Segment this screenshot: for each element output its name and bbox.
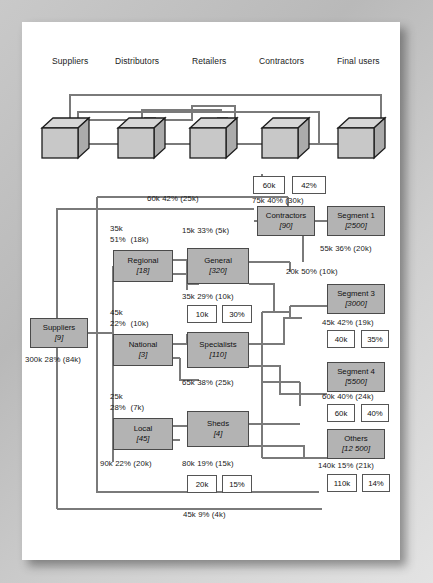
value-box-vb-segment4-1[interactable]: 60k: [327, 404, 355, 422]
value-box-vb-top-1[interactable]: 60k: [253, 176, 285, 194]
node-local-label: Local: [134, 424, 153, 434]
value-box-vb-segment4-2[interactable]: 40%: [361, 404, 389, 422]
cube-suppliers-icon: [42, 118, 89, 158]
node-contractors-label: Contractors: [266, 211, 306, 221]
value-box-vb-segment3-2[interactable]: 35%: [361, 330, 389, 348]
cube-distributors-icon: [118, 118, 165, 158]
node-sheds[interactable]: Sheds[4]: [187, 411, 249, 447]
node-segment-4-value: [5500]: [345, 377, 367, 387]
node-contractors-value: [90]: [279, 221, 292, 231]
chain-label-distributors: Distributors: [115, 56, 159, 66]
value-box-vb-sheds-2[interactable]: 15%: [222, 475, 252, 493]
node-regional-label: Regional: [128, 256, 159, 266]
node-national-label: National: [129, 340, 158, 350]
annotation-ann-75k-40: 75k 40% (30k): [252, 196, 304, 205]
chain-label-retailers: Retailers: [192, 56, 226, 66]
node-segment-3[interactable]: Segment 3[3000]: [327, 284, 385, 314]
annotation-ann-45k-22: 45k 22% (10k): [110, 308, 149, 329]
node-regional-value: [18]: [136, 266, 149, 276]
chain-label-suppliers: Suppliers: [52, 56, 88, 66]
annotation-ann-25k-28: 25k 28% (7k): [110, 392, 144, 413]
node-specialists[interactable]: Specialists[110]: [187, 332, 249, 368]
annotation-ann-45k-9: 45k 9% (4k): [183, 510, 226, 519]
node-suppliers-value: [9]: [55, 333, 64, 343]
annotation-ann-15k-33: 15k 33% (5k): [182, 226, 229, 235]
node-segment-3-value: [3000]: [345, 299, 367, 309]
annotation-ann-45k-42: 45k 42% (19k): [322, 318, 374, 327]
annotation-ann-60k-42: 60k 42% (25k): [147, 194, 199, 203]
annotation-ann-20k-50: 20k 50% (10k): [286, 267, 338, 276]
value-box-vb-sheds-1[interactable]: 20k: [187, 475, 217, 493]
annotation-ann-90k-22: 90k 22% (20k): [100, 459, 152, 468]
node-segment-4-label: Segment 4: [337, 367, 375, 377]
chain-label-contractors: Contractors: [259, 56, 304, 66]
node-suppliers[interactable]: Suppliers[9]: [30, 318, 88, 348]
node-segment-1[interactable]: Segment 1[2500]: [327, 206, 385, 236]
annotation-ann-35k-51: 35k 51% (18k): [110, 224, 149, 245]
value-box-vb-general-1[interactable]: 10k: [187, 305, 217, 323]
annotation-ann-60k-40: 60k 40% (24k): [322, 392, 374, 401]
node-regional[interactable]: Regional[18]: [113, 250, 173, 282]
annotation-ann-35k-29: 35k 29% (10k): [182, 292, 234, 301]
annotation-ann-300k-28: 300k 28% (84k): [25, 355, 81, 364]
node-general-value: [320]: [209, 266, 226, 276]
cube-final-users-icon: [338, 118, 385, 158]
node-others-value: [12 500]: [342, 444, 370, 454]
node-national[interactable]: National[3]: [113, 334, 173, 366]
node-sheds-label: Sheds: [207, 419, 229, 429]
value-box-vb-general-2[interactable]: 30%: [222, 305, 252, 323]
node-sheds-value: [4]: [214, 429, 223, 439]
node-national-value: [3]: [139, 350, 148, 360]
node-local-value: [45]: [136, 434, 149, 444]
value-box-vb-others-1[interactable]: 110k: [327, 474, 357, 492]
node-general[interactable]: General[320]: [187, 248, 249, 284]
diagram-page: SuppliersDistributorsRetailersContractor…: [22, 22, 400, 560]
node-segment-3-label: Segment 3: [337, 289, 375, 299]
node-segment-1-label: Segment 1: [337, 211, 375, 221]
node-others[interactable]: Others[12 500]: [327, 429, 385, 459]
node-general-label: General: [204, 256, 232, 266]
node-specialists-value: [110]: [210, 350, 227, 360]
node-suppliers-label: Suppliers: [43, 323, 76, 333]
image-frame: SuppliersDistributorsRetailersContractor…: [0, 0, 433, 583]
chain-label-final-users: Final users: [337, 56, 380, 66]
annotation-ann-140k-15: 140k 15% (21k): [318, 461, 374, 470]
cube-contractors-icon: [262, 118, 309, 158]
node-specialists-label: Specialists: [199, 340, 236, 350]
value-box-vb-segment3-1[interactable]: 40k: [327, 330, 355, 348]
node-contractors[interactable]: Contractors[90]: [257, 206, 315, 236]
annotation-ann-80k-19: 80k 19% (15k): [182, 459, 234, 468]
value-box-vb-top-2[interactable]: 42%: [292, 176, 326, 194]
node-local[interactable]: Local[45]: [113, 418, 173, 450]
node-segment-4[interactable]: Segment 4[5500]: [327, 362, 385, 392]
annotation-ann-65k-38: 65k 38% (25k): [182, 378, 234, 387]
value-box-vb-others-2[interactable]: 14%: [362, 474, 390, 492]
cube-retailers-icon: [190, 118, 237, 158]
node-others-label: Others: [344, 434, 367, 444]
annotation-ann-55k-36: 55k 36% (20k): [320, 244, 372, 253]
node-segment-1-value: [2500]: [345, 221, 367, 231]
